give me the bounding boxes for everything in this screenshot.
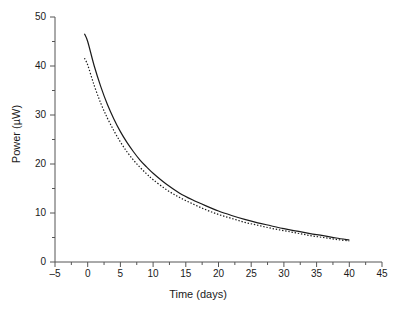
y-tick-label: 20 bbox=[20, 158, 46, 169]
y-tick-label: 0 bbox=[20, 256, 46, 267]
y-tick-label: 30 bbox=[20, 109, 46, 120]
data-series-dotted-curve bbox=[84, 58, 349, 241]
x-tick-label: 10 bbox=[138, 268, 168, 279]
chart-figure: –5051015202530354045 01020304050 Time (d… bbox=[0, 0, 396, 317]
x-tick-label: 35 bbox=[302, 268, 332, 279]
x-tick-label: 30 bbox=[269, 268, 299, 279]
y-axis-title: Power (µW) bbox=[10, 74, 22, 194]
x-tick-label: 0 bbox=[73, 268, 103, 279]
x-tick-label: 5 bbox=[105, 268, 135, 279]
x-axis-title: Time (days) bbox=[0, 288, 396, 300]
x-tick-label: 40 bbox=[334, 268, 364, 279]
y-tick-label: 10 bbox=[20, 207, 46, 218]
x-tick-label: –5 bbox=[40, 268, 70, 279]
y-tick-label: 50 bbox=[20, 11, 46, 22]
x-tick-label: 45 bbox=[367, 268, 396, 279]
data-series-solid-curve bbox=[84, 34, 349, 240]
y-tick-label: 40 bbox=[20, 60, 46, 71]
x-tick-label: 20 bbox=[204, 268, 234, 279]
x-tick-label: 25 bbox=[236, 268, 266, 279]
x-tick-label: 15 bbox=[171, 268, 201, 279]
